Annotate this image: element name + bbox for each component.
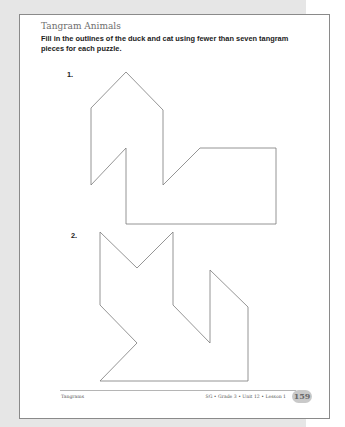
tangram-outlines bbox=[0, 0, 345, 427]
footer-section-label: Tangrams bbox=[61, 394, 84, 399]
footer-course-info: SG • Grade 3 • Unit 12 • Lesson 1 bbox=[206, 394, 286, 399]
page-number-badge: 159 bbox=[292, 390, 312, 403]
cat-outline[interactable] bbox=[100, 232, 248, 381]
duck-outline[interactable] bbox=[91, 72, 276, 224]
footer-divider bbox=[60, 390, 296, 391]
